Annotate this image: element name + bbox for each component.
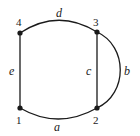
edge-label-e: e [9,64,15,78]
vertex-3 [94,29,99,34]
graph-diagram: 1 2 3 4 a b c d e [0,0,140,136]
edge-b [97,32,120,108]
edge-a [20,108,97,119]
vertex-1 [17,105,22,110]
edge-d [20,20,97,33]
edge-label-c: c [86,64,92,78]
edge-label-b: b [124,64,130,78]
edge-label-d: d [56,6,63,20]
vertex-label-3: 3 [93,16,99,28]
vertex-4 [17,30,22,35]
vertex-label-1: 1 [16,114,22,126]
vertex-2 [94,105,99,110]
vertex-label-4: 4 [16,16,22,28]
edge-label-a: a [54,120,60,134]
vertex-label-2: 2 [93,114,99,126]
